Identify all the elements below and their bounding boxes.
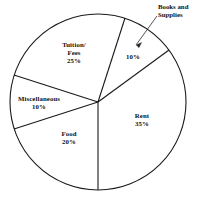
slice-label-books-supplies-percent: 10% xyxy=(122,53,144,61)
slice-label-tuition-fees: Tuition/ Fees 25% xyxy=(47,41,101,66)
books-supplies-percent: 10% xyxy=(122,53,144,61)
slice-label-miscellaneous: Miscellaneous 10% xyxy=(4,95,74,111)
tuition-label-line2: Fees xyxy=(47,49,101,57)
slice-label-food: Food 20% xyxy=(45,130,93,146)
tuition-label-percent: 25% xyxy=(47,57,101,65)
books-supplies-label-line2: Supplies xyxy=(158,11,208,19)
food-label-percent: 20% xyxy=(45,138,93,146)
rent-label-percent: 35% xyxy=(120,120,164,128)
food-label-name: Food xyxy=(45,130,93,138)
miscellaneous-label-percent: 10% xyxy=(4,103,74,111)
slice-label-rent: Rent 35% xyxy=(120,112,164,128)
callout-label-books-supplies: Books and Supplies xyxy=(158,3,208,19)
rent-label-name: Rent xyxy=(120,112,164,120)
miscellaneous-label-name: Miscellaneous xyxy=(4,95,74,103)
tuition-label-line1: Tuition/ xyxy=(47,41,101,49)
pie-chart: Tuition/ Fees 25% Miscellaneous 10% Food… xyxy=(0,0,209,200)
books-supplies-label-line1: Books and xyxy=(158,3,208,11)
